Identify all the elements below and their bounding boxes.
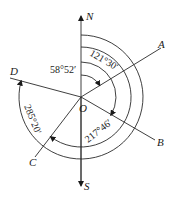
angle-label-217-46: 217°46′ bbox=[82, 117, 113, 145]
label-c: C bbox=[29, 156, 37, 168]
angle-label-58-52: 58°52′ bbox=[50, 64, 76, 75]
label-b: B bbox=[157, 136, 164, 148]
label-o: O bbox=[79, 102, 87, 114]
bearing-diagram: N S A B C D O 58°52′ 121°30′ 217°46′ 285… bbox=[0, 0, 172, 203]
angle-label-121-30: 121°30′ bbox=[88, 47, 121, 72]
label-a: A bbox=[157, 38, 165, 50]
label-d: D bbox=[9, 65, 18, 77]
label-s: S bbox=[84, 180, 90, 192]
angle-label-285-20: 285°20′ bbox=[22, 103, 44, 136]
ray-od bbox=[10, 78, 81, 97]
arc-58-52 bbox=[81, 75, 100, 86]
label-n: N bbox=[85, 10, 94, 22]
diagram-canvas: N S A B C D O 58°52′ 121°30′ 217°46′ 285… bbox=[0, 0, 172, 203]
